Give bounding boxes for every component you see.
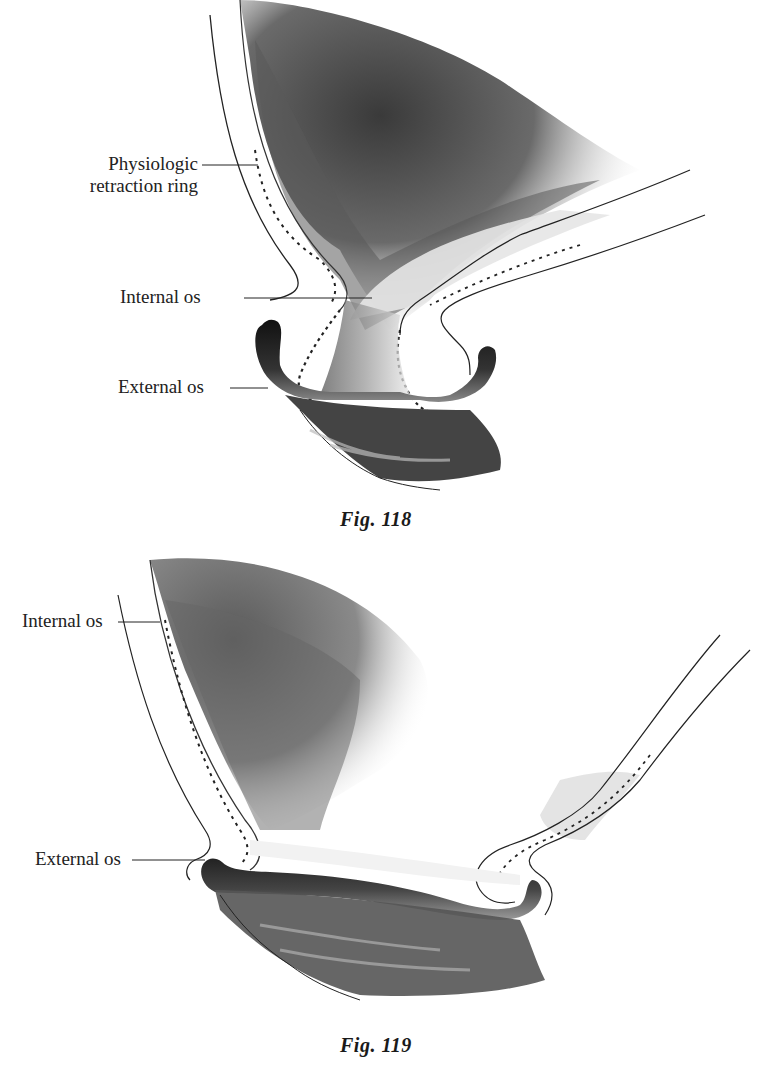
label-external-os: External os [118,376,204,398]
figure-caption: Fig. 118 [340,508,412,531]
figure-caption: Fig. 119 [340,1034,412,1057]
uterus-cervix-illustration-119 [0,540,765,1067]
label-internal-os: Internal os [120,286,201,308]
uterus-cervix-illustration-118 [0,0,765,540]
label-retraction-ring-line2: retraction ring [60,175,198,197]
label-retraction-ring-line1: Physiologic [60,153,198,175]
label-retraction-ring: Physiologic retraction ring [60,153,198,197]
figure-119: Internal os External os Fig. 119 [0,540,765,1067]
label-internal-os: Internal os [22,610,103,632]
figure-118: Physiologic retraction ring Internal os … [0,0,765,540]
label-external-os: External os [35,848,121,870]
